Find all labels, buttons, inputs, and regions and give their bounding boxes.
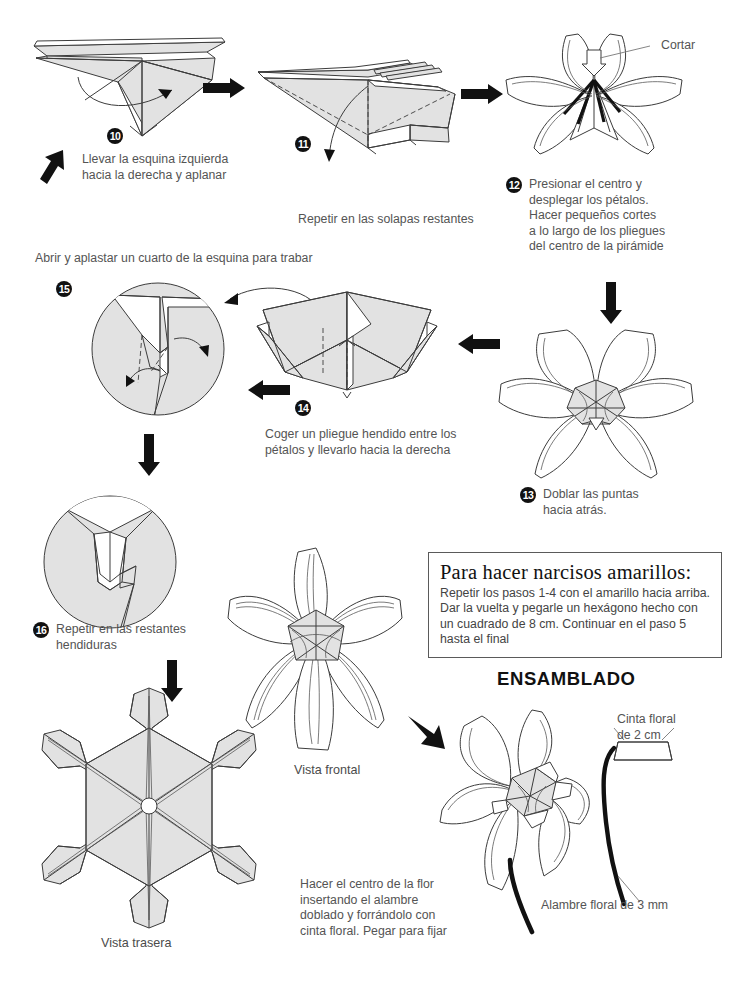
step-number-badge: 16 [33,622,49,638]
origami-instruction-page: 10 Llevar la esquina izquierda hacia la … [0,0,741,985]
step-number-badge: 13 [520,487,536,503]
step-14-caption: Coger un pliegue hendido entre los pétal… [265,427,505,458]
step-number-badge: 11 [295,136,311,152]
arrow-down-icon-a [600,282,624,326]
tape-label: Cinta floral de 2 cm [617,712,676,743]
cortar-annotation: Cortar [661,38,695,54]
front-view-diagram [228,548,403,753]
step-13-block: 13 Doblar las puntas hacia atrás. [520,487,700,518]
yellow-box-body: Repetir los pasos 1-4 con el amarillo ha… [440,586,711,648]
step-number-badge: 10 [107,128,123,144]
step-number-badge: 12 [506,177,522,193]
assembly-heading: ENSAMBLADO [497,668,636,690]
arrow-left-icon-a [456,334,500,356]
floral-wire-and-tape-diagram [600,726,720,911]
step-13-diagram [497,326,697,481]
arrow-right-icon-a [203,78,247,100]
arrow-left-icon-b [246,380,290,402]
arrow-right-icon-b [461,84,505,106]
step-16-diagram [38,490,188,638]
step-14-number: 14 [295,398,311,416]
step-16-block: 16 Repetir en las restantes hendiduras [33,622,223,653]
step-13-caption: Doblar las puntas hacia atrás. [543,487,639,518]
step-12-block: 12 Presionar el centro y desplegar los p… [506,177,716,255]
step-number-badge: 14 [295,400,311,416]
arrow-up-left-icon [34,148,68,186]
wire-label: Alambre floral de 3 mm [541,898,668,914]
back-view-label: Vista trasera [101,936,171,950]
yellow-narcissus-box: Para hacer narcisos amarillos: Repetir l… [428,552,722,658]
step-16-caption: Repetir en las restantes hendiduras [56,622,186,653]
step-11-diagram [250,50,465,160]
step-number-badge: 15 [56,281,72,297]
front-view-label: Vista frontal [294,763,360,777]
step-15-caption: Abrir y aplastar un cuarto de la esquina… [35,251,313,267]
assembly-caption: Hacer el centro de la flor insertando el… [300,877,500,939]
step-15-number: 15 [56,279,72,297]
step-12-caption: Presionar el centro y desplegar los péta… [529,177,665,255]
arrow-down-icon-b [138,434,162,478]
step-10-number: 10 [107,126,123,144]
step-11-number: 11 [295,134,311,152]
yellow-box-heading: Para hacer narcisos amarillos: [440,561,711,584]
